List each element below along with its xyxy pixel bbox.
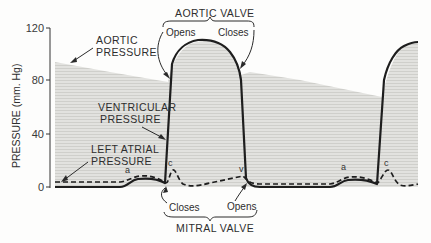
wave-label-c1: c: [168, 158, 173, 168]
y-tick-0: 0: [38, 181, 44, 193]
mitral-closes-arrow-icon: [161, 186, 168, 203]
mitral-valve-closes-label: Closes: [169, 202, 200, 213]
aortic-opens-arrow-icon: [158, 32, 170, 79]
wave-label-v1: v: [239, 164, 244, 174]
ventricular-pressure-label-line2: PRESSURE: [100, 113, 161, 125]
aortic-valve-closes-label: Closes: [218, 27, 249, 38]
cardiac-cycle-diagram: 120 80 40 0 PRESSURE (mm. Hg) a c v a c …: [0, 0, 431, 243]
aortic-valve-label: AORTIC VALVE: [175, 7, 255, 19]
wave-label-c2: c: [384, 158, 389, 168]
y-tick-80: 80: [32, 74, 44, 86]
aortic-pressure-arrow-icon: [70, 48, 93, 63]
mitral-valve-opens-label: Opens: [227, 201, 256, 212]
pressure-diagram-svg: 120 80 40 0 PRESSURE (mm. Hg) a c v a c …: [0, 0, 431, 243]
aortic-pressure-label-line2: PRESSURE: [96, 46, 157, 58]
y-axis: 120 80 40 0 PRESSURE (mm. Hg): [10, 22, 50, 193]
y-tick-120: 120: [26, 22, 44, 34]
mitral-valve-label: MITRAL VALVE: [176, 222, 254, 234]
left-atrial-pressure-label-line1: LEFT ATRIAL: [91, 143, 159, 155]
aortic-pressure-label-line1: AORTIC: [96, 34, 138, 46]
left-atrial-pressure-label-line2: PRESSURE: [91, 155, 152, 167]
ventricular-pressure-label-line1: VENTRICULAR: [98, 101, 177, 113]
aortic-valve-opens-label: Opens: [166, 27, 195, 38]
y-tick-40: 40: [32, 128, 44, 140]
y-axis-label: PRESSURE (mm. Hg): [10, 64, 22, 168]
wave-label-a2: a: [341, 162, 346, 172]
